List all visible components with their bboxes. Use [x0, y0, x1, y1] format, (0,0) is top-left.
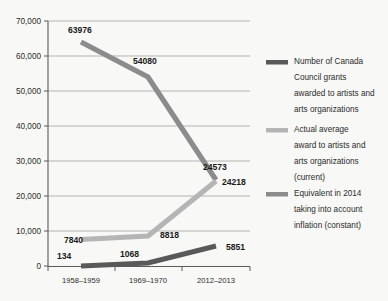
x-tick-marks [48, 267, 250, 272]
legend-swatch-actual [266, 128, 288, 133]
xtick-label-1958-1959: 1958–1959 [62, 276, 100, 285]
point-label-grants-2012: 5851 [226, 242, 245, 252]
legend-label-constant-line3: inflation (constant) [294, 221, 361, 230]
legend-label-grants-line3: awarded to artists and [294, 89, 375, 98]
point-label-actual-2012: 24218 [222, 177, 246, 187]
chart-container: 70,000 60,000 50,000 40,000 30,000 20,00… [0, 0, 388, 301]
legend-label-grants-line4: arts organizations [294, 105, 359, 114]
point-label-grants-1958: 134 [57, 251, 72, 261]
point-label-grants-1969: 1068 [120, 249, 139, 259]
legend-label-actual-line2: award to artists and [294, 141, 366, 150]
xtick-label-1969-1970: 1969–1970 [129, 276, 167, 285]
legend-label-actual-line1: Actual average [294, 125, 349, 134]
legend-label-actual-line4: (current) [294, 173, 325, 182]
ytick-label-10000: 10,000 [16, 227, 41, 236]
point-label-constant-2012: 24573 [203, 162, 227, 172]
legend-swatch-constant [266, 192, 288, 197]
legend-label-grants-line2: Council grants [294, 73, 346, 82]
legend-label-constant-line1: Equivalent in 2014 [294, 189, 362, 198]
ytick-label-60000: 60,000 [16, 52, 41, 61]
ytick-label-40000: 40,000 [16, 122, 41, 131]
legend-label-constant-line2: taking into account [294, 205, 363, 214]
point-label-actual-1969: 8818 [160, 230, 179, 240]
ytick-label-30000: 30,000 [16, 157, 41, 166]
point-label-constant-1958: 63976 [68, 25, 92, 35]
ytick-label-70000: 70,000 [16, 17, 41, 26]
gridlines [48, 21, 250, 231]
y-tick-marks [44, 21, 48, 266]
point-label-actual-1958: 7840 [64, 235, 83, 245]
line-chart: 70,000 60,000 50,000 40,000 30,000 20,00… [0, 0, 388, 301]
ytick-label-20000: 20,000 [16, 192, 41, 201]
chart-legend: Number of Canada Council grants awarded … [266, 57, 375, 230]
legend-swatch-grants [266, 60, 288, 65]
ytick-label-50000: 50,000 [16, 87, 41, 96]
legend-label-grants-line1: Number of Canada [294, 57, 364, 66]
ytick-label-0: 0 [36, 262, 41, 271]
point-label-constant-1969: 54080 [133, 56, 157, 66]
series-line-grants [81, 246, 216, 266]
legend-label-actual-line3: arts organizations [294, 157, 359, 166]
xtick-label-2012-2013: 2012–2013 [197, 276, 235, 285]
